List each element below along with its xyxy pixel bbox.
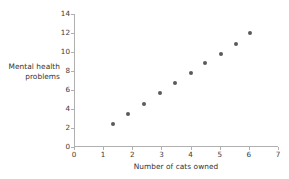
- scatter-plot-figure: Mental health problems 02468101214 01234…: [0, 0, 289, 179]
- data-point: [142, 102, 146, 106]
- data-point: [203, 61, 207, 65]
- plot-area: 02468101214 01234567: [74, 14, 278, 147]
- x-axis-line: [74, 146, 278, 147]
- y-tick-label: 10: [61, 48, 70, 56]
- y-tick-mark: [71, 71, 74, 72]
- y-tick-mark: [71, 90, 74, 91]
- y-tick-label: 14: [61, 10, 70, 18]
- x-tick-label: 3: [153, 151, 169, 159]
- y-tick-mark: [71, 109, 74, 110]
- data-point: [248, 31, 252, 35]
- x-tick-label: 4: [183, 151, 199, 159]
- y-tick-mark: [71, 52, 74, 53]
- y-axis-title-line-1: Mental health: [0, 62, 60, 72]
- data-point: [189, 71, 193, 75]
- y-tick-label: 0: [65, 143, 70, 151]
- x-axis-title: Number of cats owned: [74, 162, 278, 171]
- x-tick-label: 0: [66, 151, 82, 159]
- data-point: [219, 52, 223, 56]
- data-point: [234, 42, 238, 46]
- y-tick-mark: [71, 33, 74, 34]
- y-tick-label: 12: [61, 29, 70, 37]
- y-tick-label: 6: [65, 86, 70, 94]
- y-tick-label: 4: [65, 105, 70, 113]
- data-point: [126, 112, 130, 116]
- data-point: [173, 81, 177, 85]
- y-axis-title: Mental health problems: [0, 62, 60, 82]
- y-tick-label: 8: [65, 67, 70, 75]
- data-point: [158, 91, 162, 95]
- y-tick-label: 2: [65, 124, 70, 132]
- x-tick-label: 7: [270, 151, 286, 159]
- x-tick-label: 6: [241, 151, 257, 159]
- x-tick-label: 1: [95, 151, 111, 159]
- x-tick-label: 2: [124, 151, 140, 159]
- data-point: [111, 122, 115, 126]
- y-axis-line: [74, 14, 75, 147]
- y-tick-mark: [71, 14, 74, 15]
- y-axis-title-line-2: problems: [0, 72, 60, 82]
- y-tick-mark: [71, 128, 74, 129]
- x-tick-label: 5: [212, 151, 228, 159]
